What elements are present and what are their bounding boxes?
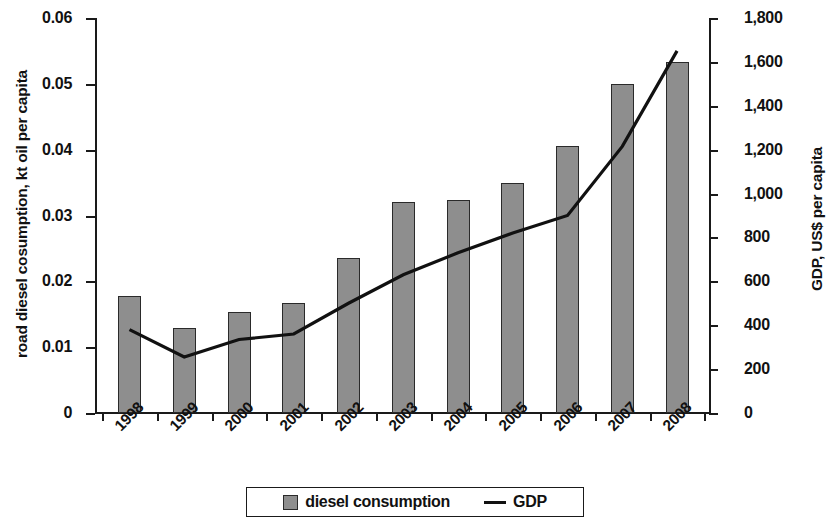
y-axis-left-tick-label: 0	[63, 405, 72, 421]
y-axis-left-tick-label: 0.05	[42, 76, 72, 92]
legend-item-diesel-consumption: diesel consumption	[283, 493, 450, 511]
line-series-gdp	[95, 18, 711, 414]
y-axis-left-tick-label: 0.03	[42, 208, 72, 224]
y-axis-right-tick-label: 400	[744, 317, 770, 333]
plot-area	[95, 18, 711, 413]
x-axis-labels: 1998199920002001200220032004200520062007…	[95, 416, 711, 491]
y-axis-left-tick-label: 0.04	[42, 142, 72, 158]
y-axis-left-tick-mark	[86, 84, 95, 86]
legend-line-icon	[484, 501, 506, 504]
y-axis-right-tick-label: 1,000	[744, 186, 783, 202]
legend-swatch-icon	[283, 495, 298, 510]
y-axis-right-tick-label: 600	[744, 273, 770, 289]
chart-legend: diesel consumption GDP	[246, 487, 584, 517]
y-axis-left-tick-mark	[86, 281, 95, 283]
y-axis-left-tick-mark	[86, 216, 95, 218]
legend-label-diesel-consumption: diesel consumption	[305, 493, 450, 511]
y-axis-left-tick-label: 0.02	[42, 273, 72, 289]
y-axis-left-ticks: 0.060.050.040.030.020.010	[0, 0, 86, 521]
y-axis-right-tick-label: 800	[744, 229, 770, 245]
y-axis-right-tick-label: 1,800	[744, 10, 783, 26]
y-axis-left-tick-mark	[86, 150, 95, 152]
y-axis-right-tick-label: 200	[744, 361, 770, 377]
y-axis-right-tick-label: 0	[744, 405, 753, 421]
y-axis-right-tick-label: 1,400	[744, 98, 783, 114]
legend-label-gdp: GDP	[513, 493, 547, 511]
y-axis-left-tick-mark	[86, 347, 95, 349]
y-axis-left-tick-mark	[86, 413, 95, 415]
legend-item-gdp: GDP	[484, 493, 547, 511]
chart-figure: road diesel cosumption, kt oil per capit…	[0, 0, 827, 521]
y-axis-left-tick-label: 0.01	[42, 339, 72, 355]
y-axis-left-tick-label: 0.06	[42, 10, 72, 26]
y-axis-right-ticks: 1,8001,6001,4001,2001,0008006004002000	[728, 0, 818, 521]
y-axis-right-tick-label: 1,200	[744, 142, 783, 158]
y-axis-right-tick-label: 1,600	[744, 54, 783, 70]
y-axis-left-tick-mark	[86, 18, 95, 20]
